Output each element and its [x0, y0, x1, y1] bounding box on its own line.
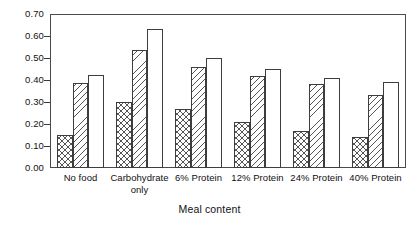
bar [234, 122, 250, 168]
category-label-line-1: 6% Protein [175, 172, 222, 183]
bar [132, 50, 148, 168]
y-axis-tick-label: 0.30 [8, 97, 44, 107]
bar [147, 29, 163, 168]
x-axis-category-label: 6% Protein [169, 172, 228, 184]
y-axis-tick-mark [44, 58, 50, 59]
bar [368, 95, 384, 168]
bar [383, 82, 399, 168]
bar-group [51, 15, 110, 168]
y-axis-tick-label: 0.10 [8, 141, 44, 151]
bar [324, 78, 340, 168]
bar [352, 137, 368, 168]
x-axis-category-labels: No foodCarbohydrateonly6% Protein12% Pro… [51, 172, 405, 200]
y-axis-tick-mark [44, 124, 50, 125]
category-label-line-1: 12% Protein [231, 172, 283, 183]
y-axis-tick-mark [44, 36, 50, 37]
bar [265, 69, 281, 168]
bar-group [169, 15, 228, 168]
bar [116, 102, 132, 168]
bar [293, 131, 309, 168]
y-axis-tick-label: 0.40 [8, 75, 44, 85]
bar-group [346, 15, 405, 168]
bar [250, 76, 266, 168]
bar [88, 75, 104, 169]
bar-group [110, 15, 169, 168]
bar [57, 135, 73, 168]
bar-group [287, 15, 346, 168]
category-label-line-1: Carbohydrate [110, 172, 168, 183]
y-axis-tick-label: 0.50 [8, 53, 44, 63]
y-axis-tick-mark [44, 102, 50, 103]
bar [191, 67, 207, 168]
bar [175, 109, 191, 168]
y-axis-tick-mark [44, 80, 50, 81]
x-axis-category-label: 40% Protein [346, 172, 405, 184]
category-label-line-1: 24% Protein [290, 172, 342, 183]
x-axis-category-label: 12% Protein [228, 172, 287, 184]
y-axis-tick-mark [44, 146, 50, 147]
y-axis-tick-labels: 0.000.100.200.300.400.500.600.70 [8, 0, 44, 230]
x-axis-category-label: No food [51, 172, 110, 184]
bars-layer [51, 15, 405, 168]
bar [309, 84, 325, 168]
x-axis-category-label: 24% Protein [287, 172, 346, 184]
bar [206, 58, 222, 168]
x-axis-category-label: Carbohydrateonly [110, 172, 169, 195]
bar-chart: 0.000.100.200.300.400.500.600.70 No food… [0, 0, 419, 230]
x-axis-title: Meal content [0, 203, 419, 215]
y-axis-tick-label: 0.70 [8, 9, 44, 19]
category-label-line-1: No food [64, 172, 98, 183]
category-label-line-1: 40% Protein [349, 172, 401, 183]
y-axis-tick-label: 0.00 [8, 163, 44, 173]
category-label-line-2: only [110, 184, 169, 196]
bar [73, 83, 89, 168]
bar-group [228, 15, 287, 168]
y-axis-tick-label: 0.20 [8, 119, 44, 129]
y-axis-tick-label: 0.60 [8, 31, 44, 41]
